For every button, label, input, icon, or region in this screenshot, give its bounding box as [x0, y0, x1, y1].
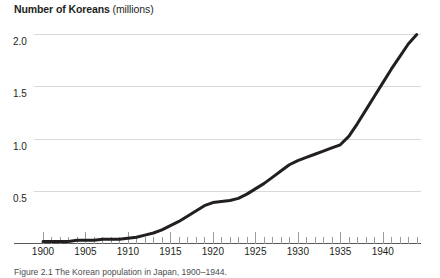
gridline-2.0	[34, 34, 421, 35]
y-axis-label-1.0: 1.0	[13, 142, 27, 152]
x-axis-minor-tick-1913	[153, 237, 154, 244]
gridline-0.5	[34, 191, 421, 192]
x-axis-major-tick-1935	[340, 232, 341, 244]
x-axis-line	[14, 243, 421, 244]
x-axis-minor-tick-1911	[136, 237, 137, 244]
x-axis-minor-tick-1941	[391, 237, 392, 244]
x-axis-minor-tick-1908	[111, 237, 112, 244]
y-axis-label-0.5: 0.5	[13, 194, 27, 204]
x-axis-minor-tick-1916	[179, 237, 180, 244]
x-axis-minor-tick-1937	[357, 237, 358, 244]
chart-title-strong: Number of Koreans	[14, 3, 110, 15]
x-axis-minor-tick-1944	[417, 237, 418, 244]
x-axis-minor-tick-1939	[374, 237, 375, 244]
x-axis-minor-tick-1907	[102, 237, 103, 244]
x-axis-minor-tick-1934	[332, 237, 333, 244]
x-axis-major-tick-1910	[128, 232, 129, 244]
x-axis-minor-tick-1924	[247, 237, 248, 244]
x-axis-major-tick-1920	[213, 232, 214, 244]
x-axis-label-1935: 1935	[329, 247, 351, 257]
x-axis-minor-tick-1904	[77, 237, 78, 244]
x-axis-minor-tick-1936	[349, 237, 350, 244]
x-axis-minor-tick-1933	[323, 237, 324, 244]
x-axis-major-tick-1925	[255, 232, 256, 244]
x-axis-minor-tick-1926	[264, 237, 265, 244]
x-axis-major-tick-1915	[170, 232, 171, 244]
x-axis-minor-tick-1902	[60, 237, 61, 244]
x-axis-label-1940: 1940	[372, 247, 394, 257]
y-axis-label-1.5: 1.5	[13, 89, 27, 99]
chart-title-units: (millions)	[110, 3, 154, 15]
x-axis-minor-tick-1917	[187, 237, 188, 244]
x-axis-minor-tick-1903	[68, 237, 69, 244]
x-axis-minor-tick-1929	[289, 237, 290, 244]
x-axis-label-1925: 1925	[244, 247, 266, 257]
plot-area	[34, 33, 421, 244]
x-axis-minor-tick-1918	[196, 237, 197, 244]
x-axis-minor-tick-1923	[238, 237, 239, 244]
figure-caption: Figure 2.1 The Korean population in Japa…	[14, 268, 227, 278]
x-axis-minor-tick-1943	[408, 237, 409, 244]
x-axis-major-tick-1900	[43, 232, 44, 244]
y-axis-label-2.0: 2.0	[13, 37, 27, 47]
x-axis-minor-tick-1912	[145, 237, 146, 244]
x-axis-minor-tick-1928	[281, 237, 282, 244]
x-axis-minor-tick-1921	[221, 237, 222, 244]
chart-title: Number of Koreans (millions)	[14, 4, 154, 16]
x-axis-minor-tick-1932	[315, 237, 316, 244]
x-axis-label-1900: 1900	[32, 247, 54, 257]
x-axis-major-tick-1930	[298, 232, 299, 244]
x-axis-minor-tick-1927	[272, 237, 273, 244]
x-axis-label-1905: 1905	[74, 247, 96, 257]
x-axis-label-1920: 1920	[202, 247, 224, 257]
gridline-1.5	[34, 86, 421, 87]
x-axis-minor-tick-1942	[400, 237, 401, 244]
x-axis-label-1930: 1930	[287, 247, 309, 257]
x-axis-label-1915: 1915	[159, 247, 181, 257]
x-axis-minor-tick-1922	[230, 237, 231, 244]
x-axis-minor-tick-1931	[306, 237, 307, 244]
x-axis-major-tick-1940	[383, 232, 384, 244]
x-axis-major-tick-1905	[85, 232, 86, 244]
x-axis-label-1910: 1910	[117, 247, 139, 257]
x-axis-minor-tick-1938	[366, 237, 367, 244]
gridline-1.0	[34, 139, 421, 140]
x-axis-minor-tick-1901	[51, 237, 52, 244]
x-axis-minor-tick-1914	[162, 237, 163, 244]
x-axis-minor-tick-1906	[94, 237, 95, 244]
x-axis-minor-tick-1919	[204, 237, 205, 244]
x-axis-minor-tick-1909	[119, 237, 120, 244]
